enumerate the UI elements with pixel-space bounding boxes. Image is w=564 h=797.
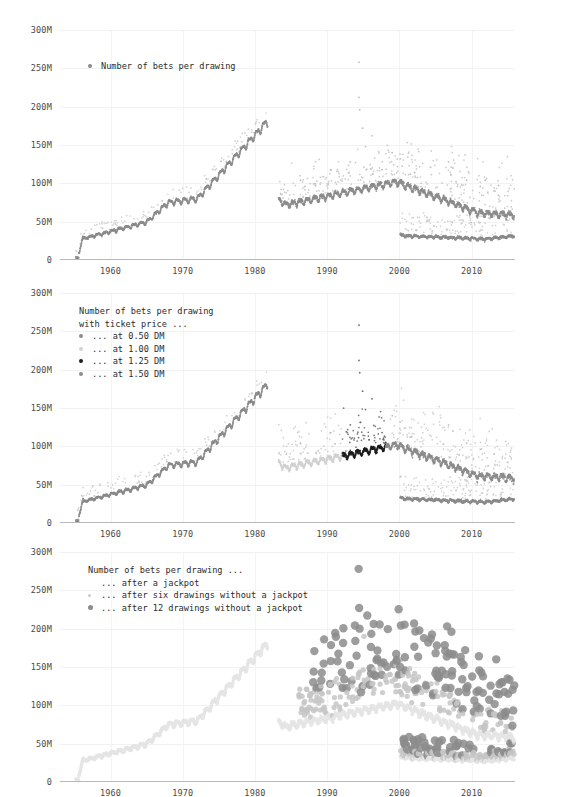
y-axis-tick-label: 50M — [4, 739, 52, 749]
y-axis-tick-label: 200M — [4, 102, 52, 112]
legend-title-line: Number of bets per drawing — [79, 305, 214, 318]
y-axis-tick-label: 0 — [4, 255, 52, 265]
legend-marker-dot-icon — [88, 594, 91, 597]
y-axis-tick-label: 200M — [4, 624, 52, 634]
y-axis-tick-label: 250M — [4, 326, 52, 336]
legend-item-label: ... after 12 drawings without a jackpot — [101, 602, 303, 615]
legend-item-label: ... at 1.00 DM — [92, 343, 164, 356]
x-axis-tick-label: 2000 — [374, 266, 424, 276]
figure-root: 300M250M200M150M100M50M0 196019701980199… — [0, 0, 564, 797]
y-axis-tick-label: 250M — [4, 63, 52, 73]
legend-item-label: ... after six drawings without a jackpot — [101, 589, 308, 602]
y-axis-tick-label: 150M — [4, 403, 52, 413]
legend-title-line: Number of bets per drawing ... — [88, 564, 243, 577]
legend-item-label: ... at 0.50 DM — [92, 330, 164, 343]
x-axis-tick-label: 2000 — [374, 529, 424, 539]
x-axis-tick-label: 2010 — [447, 266, 497, 276]
x-axis-tick-label: 1980 — [230, 788, 280, 797]
x-axis-tick-label: 2000 — [374, 788, 424, 797]
y-axis-tick-label: 0 — [4, 777, 52, 787]
x-axis-tick-label: 1960 — [86, 529, 136, 539]
legend-item-label: ... at 1.50 DM — [92, 368, 164, 381]
x-axis-tick-label: 1970 — [158, 788, 208, 797]
y-axis-tick-label: 100M — [4, 178, 52, 188]
x-axis-tick-label: 1980 — [230, 529, 280, 539]
x-axis-line — [60, 781, 515, 782]
y-axis-tick-label: 250M — [4, 585, 52, 595]
y-axis-tick-label: 100M — [4, 700, 52, 710]
x-axis-tick-label: 1990 — [302, 529, 352, 539]
legend-item-label: Number of bets per drawing — [101, 60, 236, 73]
chart-panel-jackpot-rollover: 300M250M200M150M100M50M0 196019701980199… — [0, 540, 564, 797]
x-axis-tick-label: 1970 — [158, 266, 208, 276]
y-axis-tick-label: 100M — [4, 441, 52, 451]
y-axis-tick-label: 0 — [4, 518, 52, 528]
y-axis-tick-label: 150M — [4, 140, 52, 150]
x-axis-tick-label: 1980 — [230, 266, 280, 276]
x-axis-line — [60, 522, 515, 523]
legend-title-line: with ticket price ... — [79, 318, 188, 331]
legend-marker-dot-icon — [79, 372, 83, 376]
legend-marker-dot-icon — [88, 64, 92, 68]
y-axis-tick-label: 50M — [4, 480, 52, 490]
y-axis-tick-label: 300M — [4, 547, 52, 557]
y-axis-tick-label: 150M — [4, 662, 52, 672]
x-axis-tick-label: 1970 — [158, 529, 208, 539]
chart-panel-total-bets: 300M250M200M150M100M50M0 196019701980199… — [0, 0, 564, 280]
y-axis-tick-label: 300M — [4, 25, 52, 35]
y-axis-tick-label: 200M — [4, 365, 52, 375]
y-axis-tick-label: 50M — [4, 217, 52, 227]
x-axis-tick-label: 2010 — [447, 788, 497, 797]
x-axis-tick-label: 1960 — [86, 266, 136, 276]
chart-panel-ticket-price: 300M250M200M150M100M50M0 196019701980199… — [0, 281, 564, 539]
x-axis-tick-label: 2010 — [447, 529, 497, 539]
x-axis-tick-label: 1960 — [86, 788, 136, 797]
x-axis-tick-label: 1990 — [302, 788, 352, 797]
y-axis-tick-label: 300M — [4, 288, 52, 298]
legend-item-label: ... at 1.25 DM — [92, 355, 164, 368]
x-axis-line — [60, 259, 515, 260]
legend-marker-dot-icon — [79, 347, 83, 351]
legend-item-label: ... after a jackpot — [101, 577, 199, 590]
x-axis-tick-label: 1990 — [302, 266, 352, 276]
